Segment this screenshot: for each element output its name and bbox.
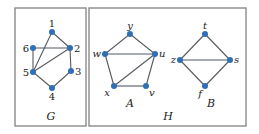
edges-layer bbox=[33, 32, 230, 88]
vertex-label-t: t bbox=[203, 20, 208, 31]
edge-3-4 bbox=[52, 71, 71, 88]
edge-y-u bbox=[130, 34, 155, 54]
subgraph-a-label: A bbox=[125, 97, 134, 110]
edge-y-w bbox=[105, 34, 130, 54]
graph-diagram: 123456ywuxvtzsf A B G H bbox=[0, 0, 259, 134]
vertex-label-s: s bbox=[234, 54, 239, 65]
vertex-t bbox=[202, 31, 208, 37]
vertex-x bbox=[111, 83, 117, 89]
vertex-u bbox=[152, 51, 158, 57]
edge-w-x bbox=[105, 54, 114, 86]
panel-h-frame bbox=[89, 8, 246, 126]
edge-v-u bbox=[146, 54, 155, 86]
edge-x-u bbox=[114, 54, 155, 86]
edge-t-s bbox=[205, 34, 230, 60]
vertex-label-x: x bbox=[104, 87, 110, 98]
edge-t-z bbox=[180, 34, 205, 60]
vertex-5 bbox=[30, 69, 36, 75]
vertex-z bbox=[177, 57, 183, 63]
vertex-s bbox=[227, 57, 233, 63]
vertex-f bbox=[202, 83, 208, 89]
vertex-label-y: y bbox=[126, 20, 133, 31]
vertex-label-6: 6 bbox=[23, 43, 29, 54]
panel-h-label: H bbox=[162, 110, 173, 123]
edge-2-3 bbox=[70, 48, 71, 71]
vertex-3 bbox=[68, 68, 74, 74]
vertex-label-2: 2 bbox=[74, 43, 80, 54]
vertex-6 bbox=[30, 45, 36, 51]
vertex-label-w: w bbox=[92, 48, 101, 59]
vertex-label-v: v bbox=[149, 87, 155, 98]
vertex-label-4: 4 bbox=[49, 91, 55, 102]
panel-g-label: G bbox=[47, 110, 56, 123]
vertex-label-5: 5 bbox=[23, 67, 29, 78]
vertex-label-u: u bbox=[159, 48, 165, 59]
edge-f-s bbox=[205, 60, 230, 86]
vertex-label-3: 3 bbox=[75, 66, 81, 77]
vertex-label-1: 1 bbox=[49, 18, 55, 29]
subgraph-b-label: B bbox=[206, 97, 215, 110]
vertex-y bbox=[127, 31, 133, 37]
edge-1-2 bbox=[52, 32, 70, 48]
edge-z-f bbox=[180, 60, 205, 86]
vertex-label-z: z bbox=[170, 54, 177, 65]
vertex-w bbox=[102, 51, 108, 57]
vertex-1 bbox=[49, 29, 55, 35]
vertex-label-f: f bbox=[197, 88, 204, 99]
edge-4-5 bbox=[33, 72, 52, 88]
vertex-2 bbox=[67, 45, 73, 51]
